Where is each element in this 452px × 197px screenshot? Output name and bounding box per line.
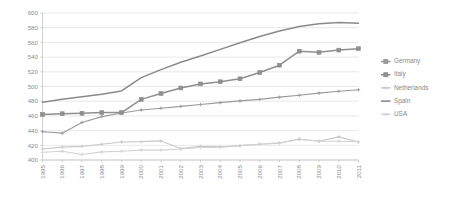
chart-legend: GermanyItalyNetherlandsSpainUSA xyxy=(381,57,428,117)
data-point-marker xyxy=(297,49,301,53)
data-point-marker xyxy=(238,77,242,81)
x-tick-label-2002: 2002 xyxy=(177,164,184,178)
legend-label: Germany xyxy=(394,57,421,65)
x-tick-label-2011: 2011 xyxy=(355,164,362,178)
x-tick-label-2006: 2006 xyxy=(256,164,263,178)
data-point-marker xyxy=(100,111,104,115)
legend-swatch-marker xyxy=(384,60,388,64)
y-tick-label-460: 460 xyxy=(28,112,39,119)
data-point-marker xyxy=(60,112,64,116)
x-tick-label-2010: 2010 xyxy=(335,164,342,178)
x-tick-label-1996: 1996 xyxy=(58,164,65,178)
x-axis-tick-labels: 1995199619971998199920002001200220032004… xyxy=(39,164,362,178)
legend-item-italy[interactable]: Italy xyxy=(381,70,407,78)
legend-item-usa[interactable]: USA xyxy=(381,110,408,117)
legend-label: USA xyxy=(394,110,408,117)
series-spain xyxy=(43,23,359,103)
x-tick-label-2005: 2005 xyxy=(236,164,243,178)
gridlines xyxy=(43,13,359,160)
series-usa xyxy=(41,138,360,156)
y-tick-label-420: 420 xyxy=(28,142,39,149)
legend-label: Italy xyxy=(394,70,407,78)
y-tick-label-440: 440 xyxy=(28,127,39,134)
y-tick-label-580: 580 xyxy=(28,24,39,31)
y-tick-label-480: 480 xyxy=(28,97,39,104)
data-point-marker xyxy=(179,86,183,90)
data-point-marker xyxy=(159,92,163,96)
legend-label: Netherlands xyxy=(394,84,428,91)
y-axis-tick-labels: 400420440460480500520540560580600 xyxy=(28,9,39,163)
data-point-marker xyxy=(337,48,341,52)
x-tick-label-1998: 1998 xyxy=(98,164,105,178)
data-point-marker xyxy=(258,71,262,75)
x-tick-label-2007: 2007 xyxy=(276,164,283,178)
y-tick-label-600: 600 xyxy=(28,9,39,16)
legend-swatch-marker xyxy=(384,73,388,77)
x-tick-label-2001: 2001 xyxy=(157,164,164,178)
series-germany xyxy=(41,88,360,135)
data-point-marker xyxy=(80,111,84,115)
data-point-marker xyxy=(278,63,282,67)
chart-canvas: 400420440460480500520540560580600 199519… xyxy=(0,0,452,197)
data-point-marker xyxy=(120,111,124,115)
y-tick-label-520: 520 xyxy=(28,68,39,75)
x-tick-label-1997: 1997 xyxy=(78,164,85,178)
legend-item-netherlands[interactable]: Netherlands xyxy=(381,84,428,91)
data-point-marker xyxy=(317,50,321,54)
data-point-marker xyxy=(218,80,222,84)
legend-item-spain[interactable]: Spain xyxy=(381,97,411,105)
series-line-spain xyxy=(43,23,359,103)
data-point-marker xyxy=(199,82,203,86)
x-tick-label-1995: 1995 xyxy=(39,164,46,178)
line-chart: 400420440460480500520540560580600 199519… xyxy=(0,0,452,197)
y-tick-label-540: 540 xyxy=(28,53,39,60)
x-tick-label-1999: 1999 xyxy=(118,164,125,178)
x-tick-label-2003: 2003 xyxy=(197,164,204,178)
x-tick-label-2000: 2000 xyxy=(137,164,144,178)
x-tick-label-2004: 2004 xyxy=(216,164,223,178)
data-point-marker xyxy=(139,97,143,101)
x-tick-label-2009: 2009 xyxy=(315,164,322,178)
data-point-marker xyxy=(41,113,45,117)
data-point-marker xyxy=(357,47,361,51)
y-tick-label-500: 500 xyxy=(28,83,39,90)
legend-item-germany[interactable]: Germany xyxy=(381,57,421,65)
y-tick-label-400: 400 xyxy=(28,156,39,163)
legend-label: Spain xyxy=(394,97,411,105)
x-tick-label-2008: 2008 xyxy=(295,164,302,178)
y-tick-label-560: 560 xyxy=(28,39,39,46)
